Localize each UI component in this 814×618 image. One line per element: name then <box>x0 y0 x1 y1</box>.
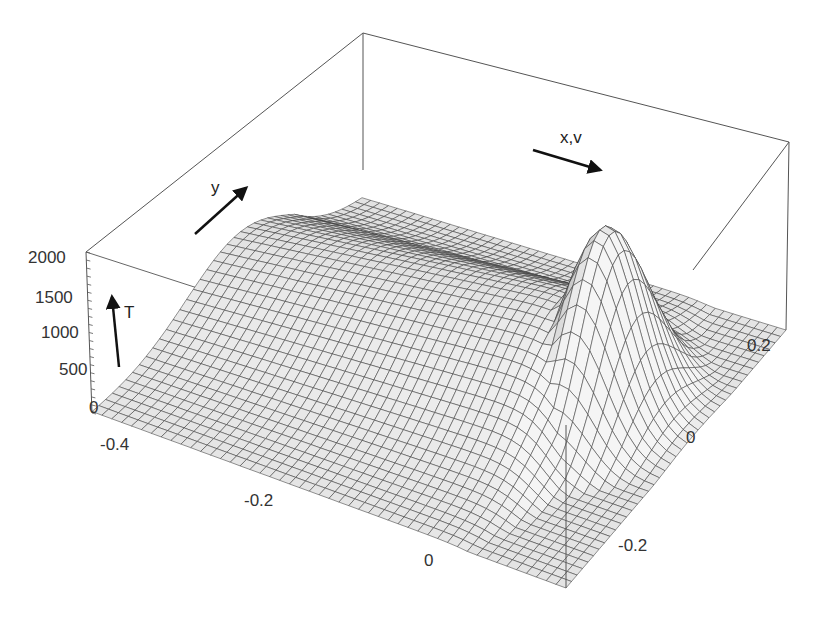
z-tick-1000: 1000 <box>41 323 79 343</box>
x-arrow-icon <box>533 150 600 170</box>
y-tick-0: 0 <box>686 428 695 448</box>
z-tick-0: 0 <box>89 398 98 418</box>
temperature-surface <box>92 198 786 588</box>
y-axis-label: y <box>211 178 220 198</box>
y-tick-0.2: 0.2 <box>747 336 771 356</box>
z-tick-500: 500 <box>59 360 87 380</box>
x-tick-neg0.2: -0.2 <box>244 491 273 511</box>
t-arrow-icon <box>112 297 119 367</box>
x-tick-0: 0 <box>424 551 433 571</box>
y-arrow-icon <box>195 188 246 234</box>
surface-plot <box>0 0 814 618</box>
t-axis-label: T <box>124 303 134 323</box>
x-axis-label: x,v <box>560 128 582 148</box>
z-tick-2000: 2000 <box>28 248 66 268</box>
x-tick-neg0.4: -0.4 <box>100 435 129 455</box>
z-tick-1500: 1500 <box>35 288 73 308</box>
y-tick-neg0.2: -0.2 <box>618 536 647 556</box>
